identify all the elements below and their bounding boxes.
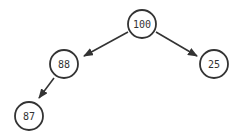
- node-label: 87: [23, 111, 35, 122]
- node-100: 100: [128, 10, 156, 38]
- node-25: 25: [200, 50, 228, 78]
- edge-100-88: [84, 32, 128, 56]
- node-label: 88: [58, 59, 70, 70]
- tree-diagram: 100 88 25 87: [0, 0, 242, 139]
- edge-88-87: [39, 78, 54, 98]
- node-87: 87: [15, 102, 43, 130]
- node-label: 100: [133, 19, 151, 30]
- node-88: 88: [50, 50, 78, 78]
- node-label: 25: [208, 59, 220, 70]
- edge-100-25: [156, 32, 197, 56]
